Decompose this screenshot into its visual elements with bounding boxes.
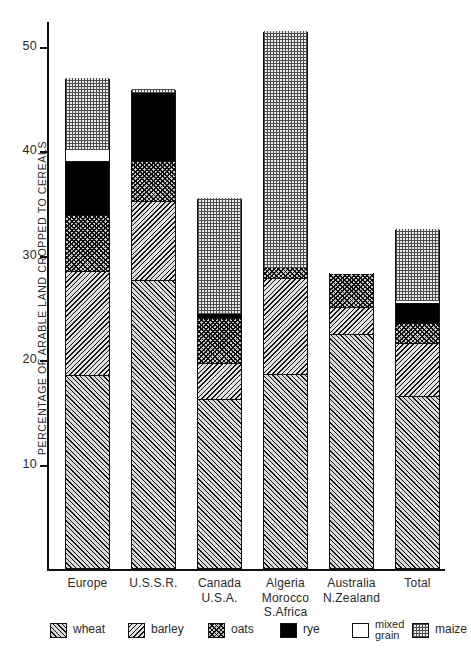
bar-segment-maize[interactable] — [198, 198, 241, 314]
bar-segment-rye[interactable] — [396, 304, 439, 324]
bar-segment-wheat[interactable] — [264, 375, 307, 569]
legend-label-rye: rye — [303, 624, 320, 636]
bar-segment-wheat[interactable] — [396, 397, 439, 569]
legend-label-maize: maize — [435, 624, 467, 636]
legend-item-mixed-grain[interactable]: mixedgrain — [352, 617, 404, 643]
bar-segment-oats[interactable] — [330, 274, 373, 308]
legend-swatch-mixed-grain — [352, 623, 369, 638]
bar-segment-rye[interactable] — [132, 93, 175, 162]
bar-segment-oats[interactable] — [132, 162, 175, 202]
legend-item-maize[interactable]: maize — [412, 617, 467, 643]
legend-label-line: grain — [375, 630, 404, 642]
bar-segment-wheat[interactable] — [198, 400, 241, 569]
bar-europe[interactable] — [65, 79, 110, 570]
bar-segment-rye[interactable] — [66, 162, 109, 216]
y-tick-50 — [40, 47, 48, 49]
bar-ussr[interactable] — [131, 90, 176, 570]
bar-segment-barley[interactable] — [330, 308, 373, 335]
legend-label-oats: oats — [231, 624, 254, 636]
y-tick-10 — [40, 465, 48, 467]
category-label-line: N.Zealand — [292, 591, 412, 606]
legend-label-line: maize — [435, 624, 467, 636]
legend-swatch-rye — [280, 623, 297, 638]
bar-segment-barley[interactable] — [264, 279, 307, 375]
legend-item-barley[interactable]: barley — [128, 617, 184, 643]
bar-segment-barley[interactable] — [132, 202, 175, 281]
legend-item-rye[interactable]: rye — [280, 617, 320, 643]
category-label-5: Total — [358, 576, 471, 591]
bar-segment-oats[interactable] — [198, 319, 241, 365]
legend-swatch-barley — [128, 623, 145, 638]
bar-segment-oats[interactable] — [396, 324, 439, 344]
legend-label-line: wheat — [73, 624, 105, 636]
y-tick-label-50: 50 — [3, 39, 37, 53]
bar-segment-oats[interactable] — [264, 268, 307, 278]
bar-segment-maize[interactable] — [264, 31, 307, 268]
y-tick-label-40: 40 — [3, 143, 37, 157]
bar-segment-oats[interactable] — [66, 216, 109, 271]
legend-label-mixed-grain: mixedgrain — [375, 619, 404, 642]
category-label-line: Total — [358, 576, 471, 591]
y-tick-30 — [40, 256, 48, 258]
y-tick-40 — [40, 151, 48, 153]
bar-segment-barley[interactable] — [198, 364, 241, 399]
bar-segment-maize[interactable] — [132, 89, 175, 93]
bar-algeria[interactable] — [263, 32, 308, 570]
y-tick-label-10: 10 — [3, 457, 37, 471]
legend-label-line: oats — [231, 624, 254, 636]
y-tick-label-30: 30 — [3, 248, 37, 262]
bar-segment-mixed-grain[interactable] — [330, 272, 373, 274]
y-tick-20 — [40, 360, 48, 362]
bar-total[interactable] — [395, 230, 440, 570]
legend: wheatbarleyoatsryemixedgrainmaize — [0, 617, 460, 647]
legend-item-oats[interactable]: oats — [208, 617, 254, 643]
legend-swatch-oats — [208, 623, 225, 638]
bar-segment-wheat[interactable] — [132, 281, 175, 569]
bar-segment-rye[interactable] — [198, 314, 241, 318]
bar-segment-maize[interactable] — [66, 78, 109, 150]
bar-segment-mixed-grain[interactable] — [66, 150, 109, 161]
legend-label-line: rye — [303, 624, 320, 636]
bar-australia[interactable] — [329, 273, 374, 570]
legend-label-barley: barley — [151, 624, 184, 636]
legend-label-wheat: wheat — [73, 624, 105, 636]
legend-label-line: barley — [151, 624, 184, 636]
bar-segment-mixed-grain[interactable] — [396, 301, 439, 304]
legend-item-wheat[interactable]: wheat — [50, 617, 105, 643]
bar-segment-barley[interactable] — [66, 272, 109, 376]
plot-area — [49, 22, 445, 570]
bar-canada[interactable] — [197, 199, 242, 570]
legend-swatch-maize — [412, 623, 429, 638]
bar-segment-wheat[interactable] — [330, 335, 373, 569]
bar-segment-barley[interactable] — [396, 344, 439, 397]
bar-segment-maize[interactable] — [396, 229, 439, 301]
legend-swatch-wheat — [50, 623, 67, 638]
bar-segment-wheat[interactable] — [66, 376, 109, 569]
y-tick-label-20: 20 — [3, 352, 37, 366]
